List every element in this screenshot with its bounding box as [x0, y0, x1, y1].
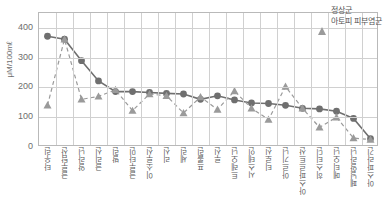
x-tick-label: 페닐알라닌	[349, 147, 360, 187]
x-tick-label: 트레오닌	[230, 147, 241, 179]
data-point	[180, 91, 187, 98]
x-tick-label: 타우린	[43, 147, 54, 171]
gridline-vertical	[243, 13, 244, 145]
x-tick-label: 루신	[213, 147, 224, 163]
y-tick-label: 0	[28, 141, 33, 151]
x-tick-label: 글루탐산	[60, 147, 71, 179]
gridline-vertical	[90, 13, 91, 145]
legend-label-normal: 정상군	[331, 5, 352, 16]
x-tick-label: 히스티딘	[315, 147, 326, 179]
x-tick-label: 리신	[162, 147, 173, 163]
x-tick-label: 글리신	[94, 147, 105, 171]
gridline-vertical	[277, 13, 278, 145]
data-point	[316, 105, 323, 112]
data-point	[282, 83, 290, 90]
gridline-vertical	[107, 13, 108, 145]
gridline-vertical	[56, 13, 57, 145]
gridline-vertical	[345, 13, 346, 145]
gridline-vertical	[141, 13, 142, 145]
gridline-vertical	[73, 13, 74, 145]
gridline-vertical	[226, 13, 227, 145]
title-strip	[4, 0, 124, 9]
data-point	[214, 92, 221, 99]
gridline-vertical	[158, 13, 159, 145]
gridline-vertical	[260, 13, 261, 145]
x-tick-label: 알라닌	[77, 147, 88, 171]
data-point	[95, 77, 102, 84]
gridline-vertical	[124, 13, 125, 145]
gridline-vertical	[294, 13, 295, 145]
data-point	[44, 101, 52, 108]
gridline-horizontal	[39, 58, 377, 59]
data-point	[129, 88, 136, 95]
data-point	[231, 97, 238, 104]
x-axis-labels: 타우린글루탐산알라닌글리신발린글루타민이소루신리신세린프롤린루신트레오닌시스테인…	[38, 147, 378, 212]
data-point	[44, 33, 51, 40]
data-point	[95, 92, 103, 99]
x-tick-label: 세린	[179, 147, 190, 163]
gridline-horizontal	[39, 117, 377, 118]
gridline-vertical	[192, 13, 193, 145]
gridline-vertical	[311, 13, 312, 145]
legend-entry-normal: 정상군	[318, 5, 382, 16]
data-point	[265, 100, 272, 107]
gridline-vertical	[175, 13, 176, 145]
x-tick-label: 발린	[111, 147, 122, 163]
y-tick-label: 100	[18, 111, 33, 121]
triangle-marker-icon	[318, 17, 327, 26]
legend-label-atopic: 아토피 피부염군	[331, 16, 382, 27]
data-point	[350, 115, 357, 122]
x-tick-label: 프롤린	[196, 147, 207, 171]
data-point	[214, 105, 222, 112]
gridline-vertical	[362, 13, 363, 145]
data-point	[248, 104, 256, 111]
gridline-vertical	[209, 13, 210, 145]
circle-marker-icon	[318, 6, 327, 15]
x-tick-label: 글루타민	[128, 147, 139, 179]
x-tick-label: 시스테인	[247, 147, 258, 179]
y-axis-title: μM/100mℓ	[5, 29, 14, 91]
data-point	[282, 102, 289, 109]
data-point	[197, 93, 205, 100]
x-tick-label: 아르기닌	[281, 147, 292, 179]
x-tick-label: 이소루신	[145, 147, 156, 179]
gridline-horizontal	[39, 28, 377, 29]
y-tick-label: 300	[18, 52, 33, 62]
chart-legend: 정상군 아토피 피부염군	[318, 5, 382, 27]
gridline-horizontal	[39, 87, 377, 88]
y-tick-label: 200	[18, 81, 33, 91]
y-tick-label: 400	[18, 22, 33, 32]
x-tick-label: 메티오닌	[332, 147, 343, 179]
x-tick-label: 아스파르트산	[298, 147, 309, 195]
gridline-vertical	[328, 13, 329, 145]
plot-area	[38, 12, 378, 146]
chart-figure: 4003002001000 μM/100mℓ 타우린글루탐산알라닌글리신발린글루…	[0, 0, 390, 212]
legend-entry-atopic: 아토피 피부염군	[318, 16, 382, 27]
x-tick-label: 티로신	[264, 147, 275, 171]
x-tick-label: 아스파라긴	[366, 147, 377, 187]
